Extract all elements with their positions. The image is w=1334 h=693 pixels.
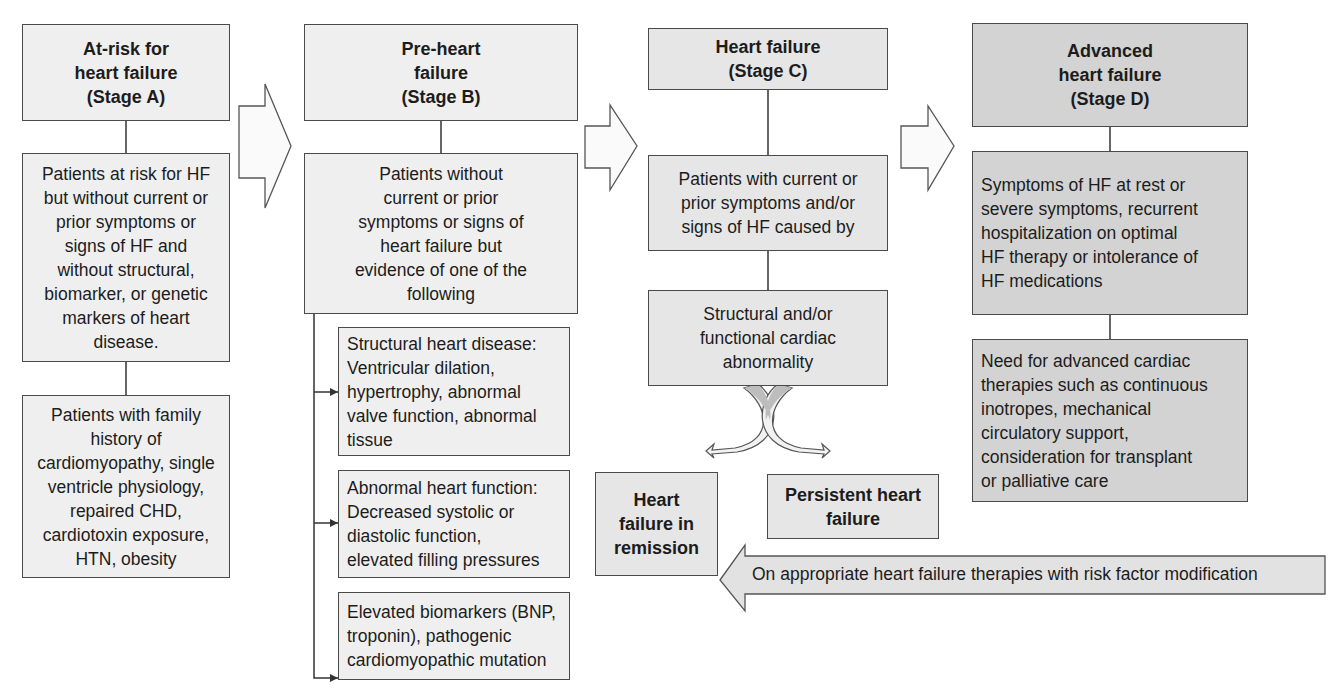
stage-c-abnormality-text: Structural and/or functional cardiac abn… — [700, 302, 836, 374]
arrowhead-crit1 — [330, 388, 338, 396]
stage-d-title-text: Advanced heart failure (Stage D) — [1058, 39, 1161, 111]
stage-b-criterion-biomarkers: Elevated biomarkers (BNP, troponin), pat… — [338, 592, 570, 680]
stage-a-risk-factors: Patients with family history of cardiomy… — [22, 395, 230, 578]
stage-arrow-b-to-c — [585, 105, 637, 190]
outcome-remission: Heart failure in remission — [595, 472, 718, 576]
stage-a-description: Patients at risk for HF but without curr… — [22, 153, 230, 362]
criterion-function-text: Abnormal heart function: Decreased systo… — [347, 476, 540, 572]
stage-a-title-text: At-risk for heart failure (Stage A) — [74, 37, 177, 109]
stage-a-risk-factors-text: Patients with family history of cardiomy… — [37, 403, 215, 571]
outcome-persistent: Persistent heart failure — [767, 474, 939, 539]
stage-a-description-text: Patients at risk for HF but without curr… — [42, 162, 210, 354]
stage-arrow-a-to-b — [239, 84, 291, 208]
stage-d-description: Symptoms of HF at rest or severe symptom… — [972, 151, 1248, 315]
stage-b-description-text: Patients without current or prior sympto… — [355, 162, 527, 306]
stage-b-description: Patients without current or prior sympto… — [304, 153, 578, 314]
stage-d-title: Advanced heart failure (Stage D) — [972, 23, 1248, 127]
stage-c-title-text: Heart failure (Stage C) — [715, 35, 820, 83]
stage-a-title: At-risk for heart failure (Stage A) — [22, 24, 230, 121]
stage-b-title: Pre-heart failure (Stage B) — [304, 24, 578, 121]
connector-b-bracket — [314, 313, 338, 678]
arrowhead-crit2 — [330, 519, 338, 527]
stage-arrow-c-to-d — [901, 106, 954, 190]
stage-c-description-text: Patients with current or prior symptoms … — [679, 167, 858, 239]
stage-c-abnormality: Structural and/or functional cardiac abn… — [648, 290, 888, 386]
stage-d-advanced-therapies-text: Need for advanced cardiac therapies such… — [981, 349, 1208, 493]
outcome-persistent-text: Persistent heart failure — [785, 483, 921, 531]
stage-d-advanced-therapies: Need for advanced cardiac therapies such… — [972, 339, 1248, 502]
outcome-remission-text: Heart failure in remission — [614, 488, 699, 560]
stage-b-criterion-function: Abnormal heart function: Decreased systo… — [338, 470, 570, 578]
stage-b-criterion-structural: Structural heart disease: Ventricular di… — [338, 327, 570, 456]
stage-b-title-text: Pre-heart failure (Stage B) — [401, 37, 480, 109]
stage-c-title: Heart failure (Stage C) — [648, 28, 888, 90]
therapy-arrow-label: On appropriate heart failure therapies w… — [752, 564, 1258, 585]
criterion-biomarkers-text: Elevated biomarkers (BNP, troponin), pat… — [347, 600, 556, 672]
stage-d-description-text: Symptoms of HF at rest or severe symptom… — [981, 173, 1198, 293]
stage-c-description: Patients with current or prior symptoms … — [648, 155, 888, 251]
arrowhead-crit3 — [330, 674, 338, 682]
criterion-structural-text: Structural heart disease: Ventricular di… — [347, 332, 537, 452]
